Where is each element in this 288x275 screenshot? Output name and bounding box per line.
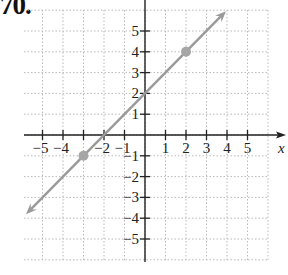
y-tick-label: 5 <box>132 23 140 39</box>
x-tick-label: 1 <box>162 140 170 156</box>
y-tick-label: −3 <box>123 189 139 205</box>
y-tick-label: −5 <box>123 231 139 247</box>
x-axis-label: x <box>277 140 285 156</box>
y-tick-label: −4 <box>123 210 139 226</box>
data-point <box>181 47 191 57</box>
y-tick-label: 1 <box>132 106 140 122</box>
x-tick-label: −4 <box>53 140 69 156</box>
y-tick-label: −1 <box>123 148 139 164</box>
grid-lines <box>24 10 268 262</box>
y-tick-label: −2 <box>123 169 139 185</box>
x-tick-label: 3 <box>203 140 211 156</box>
coordinate-plane: x −5−4−2−112345−5−4−3−2−112345 <box>0 0 288 275</box>
x-tick-label: −5 <box>33 140 49 156</box>
x-tick-label: 4 <box>223 140 231 156</box>
y-tick-label: 4 <box>132 44 140 60</box>
x-tick-label: 5 <box>244 140 252 156</box>
y-tick-label: 3 <box>132 65 140 81</box>
data-point <box>79 151 89 161</box>
x-tick-label: 2 <box>182 140 190 156</box>
